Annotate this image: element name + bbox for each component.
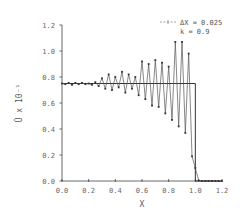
data-point-marker <box>158 106 160 108</box>
data-point-marker <box>211 180 213 182</box>
data-point-marker <box>78 83 80 85</box>
x-tick-label: 1.2 <box>216 187 229 195</box>
y-tick-label: 0.6 <box>42 100 55 108</box>
data-point-marker <box>188 53 190 55</box>
data-point-marker <box>174 41 176 43</box>
data-point-marker <box>198 179 200 181</box>
x-tick-label: 0.4 <box>109 187 122 195</box>
data-point-marker <box>118 87 120 89</box>
data-point-marker <box>121 71 123 73</box>
data-point-marker <box>144 98 146 100</box>
numerical-solution-line <box>62 42 222 181</box>
data-point-marker <box>151 105 153 107</box>
data-point-marker <box>214 180 216 182</box>
data-point-marker <box>74 82 76 84</box>
y-tick-label: 0.0 <box>42 178 55 186</box>
data-point-marker <box>88 83 90 85</box>
data-point-marker <box>201 180 203 182</box>
data-point-marker <box>141 61 143 63</box>
y-tick-label: 0.4 <box>42 126 55 134</box>
data-point-marker <box>104 88 106 90</box>
data-point-marker <box>98 85 100 87</box>
data-point-marker <box>148 63 150 65</box>
plot-series <box>61 41 223 182</box>
axes <box>62 25 222 181</box>
data-point-marker <box>124 92 126 94</box>
x-tick-label: 1.0 <box>189 187 202 195</box>
data-point-marker <box>108 74 110 76</box>
data-point-marker <box>191 155 193 157</box>
data-point-marker <box>84 83 86 85</box>
data-point-marker <box>128 74 130 76</box>
data-point-marker <box>91 84 93 86</box>
chart-svg: 0.00.20.40.60.81.01.2 0.00.20.40.60.81.0… <box>0 0 242 221</box>
data-point-marker <box>164 113 166 115</box>
data-point-marker <box>168 66 170 68</box>
data-point-marker <box>94 81 96 83</box>
legend-entry-k: k = 0.9 <box>180 28 210 36</box>
data-point-marker <box>114 76 116 78</box>
data-point-marker <box>181 41 183 43</box>
data-point-marker <box>221 180 223 182</box>
data-point-marker <box>131 88 133 90</box>
data-point-marker <box>218 180 220 182</box>
data-point-marker <box>64 83 66 85</box>
y-axis-ticks: 0.00.20.40.60.81.01.2 <box>42 22 62 186</box>
data-point-marker <box>154 59 156 61</box>
data-point-marker <box>208 180 210 182</box>
y-tick-label: 0.8 <box>42 74 55 82</box>
exact-solution-line <box>62 84 222 182</box>
y-tick-label: 0.2 <box>42 152 55 160</box>
y-tick-label: 1.0 <box>42 48 55 56</box>
x-tick-label: 0.2 <box>82 187 95 195</box>
data-point-marker <box>204 180 206 182</box>
data-point-marker <box>161 62 163 64</box>
data-point-marker <box>184 132 186 134</box>
x-tick-label: 0.6 <box>136 187 149 195</box>
data-point-marker <box>81 82 83 84</box>
data-point-marker <box>101 77 103 79</box>
x-axis-title: X <box>140 200 145 209</box>
data-point-marker <box>111 89 113 91</box>
data-point-marker <box>68 82 70 84</box>
data-point-marker <box>61 83 63 85</box>
y-tick-label: 1.2 <box>42 22 55 30</box>
x-tick-label: 0.0 <box>56 187 69 195</box>
legend-entry-dx: ΔX = 0.025 <box>180 19 222 27</box>
data-point-marker <box>134 76 136 78</box>
data-point-marker <box>71 84 73 86</box>
x-tick-label: 0.8 <box>162 187 175 195</box>
y-axis-title: Ū x 10⁻¹ <box>14 84 24 123</box>
data-point-marker <box>194 167 196 169</box>
legend: ΔX = 0.025 k = 0.9 <box>160 19 222 37</box>
data-point-marker <box>178 126 180 128</box>
data-point-marker <box>171 119 173 121</box>
data-point-marker <box>138 94 140 96</box>
